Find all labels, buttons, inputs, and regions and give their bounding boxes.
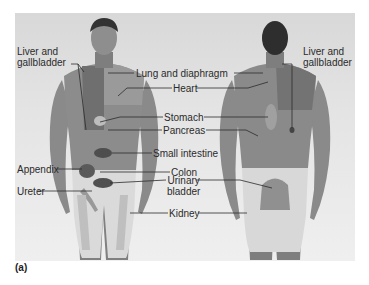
label-liver-gallbladder-front: Liver and gallbladder: [17, 46, 66, 68]
figure-caption: (a): [15, 262, 27, 273]
label-line: bladder: [167, 186, 200, 197]
label-stomach: Stomach: [164, 112, 203, 123]
referred-pain-diagram: [0, 0, 369, 285]
label-heart: Heart: [173, 83, 197, 94]
label-liver-gallbladder-back: Liver and gallbladder: [303, 46, 352, 68]
label-lung-diaphragm: Lung and diaphragm: [136, 68, 228, 79]
label-line: Liver and: [303, 46, 352, 57]
label-kidney: Kidney: [169, 208, 200, 219]
small-intestine-region: [94, 148, 112, 158]
label-line: Urinary: [167, 175, 200, 186]
label-urinary-bladder: Urinary bladder: [167, 175, 200, 197]
label-ureter: Ureter: [17, 186, 45, 197]
label-line: gallbladder: [17, 57, 66, 68]
appendix-region: [79, 164, 95, 178]
label-line: gallbladder: [303, 57, 352, 68]
front-figure: [50, 18, 159, 260]
label-appendix: Appendix: [17, 164, 59, 175]
label-pancreas: Pancreas: [163, 125, 205, 136]
label-small-intestine: Small intestine: [153, 148, 218, 159]
label-line: Liver and: [17, 46, 66, 57]
